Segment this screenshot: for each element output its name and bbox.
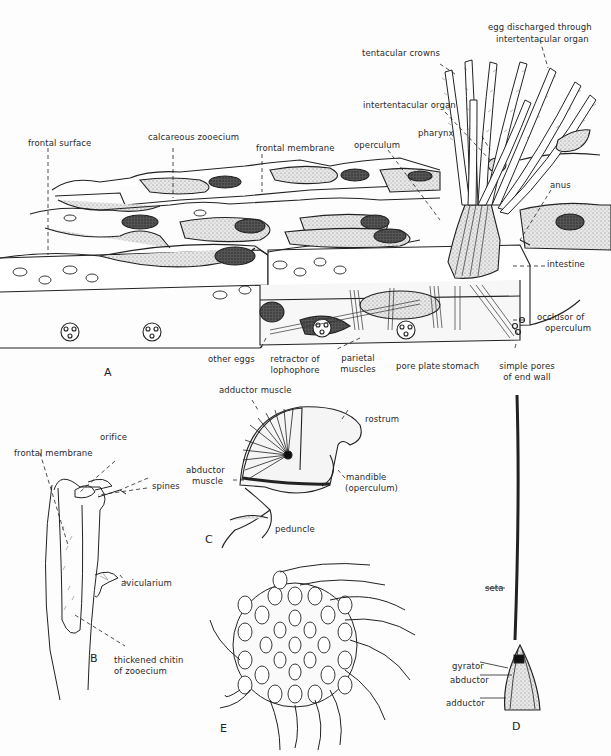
label-orifice: orifice — [100, 432, 127, 442]
label-operculum: operculum — [354, 140, 400, 150]
label-abductor-line1: abductor — [186, 465, 225, 475]
panel-letter-b: B — [90, 652, 98, 665]
panel-d-drawing — [480, 395, 540, 710]
bryozoan-anatomy-figure: frontal surface calcareous zooecium fron… — [0, 0, 611, 756]
label-anus: anus — [550, 180, 571, 190]
panel-letter-a: A — [104, 366, 112, 379]
label-calcareous-zooecium: calcareous zooecium — [148, 132, 239, 142]
label-gyrator: gyrator — [452, 661, 484, 671]
label-intertentacular-organ: intertentacular organ — [363, 100, 456, 110]
label-other-eggs: other eggs — [208, 354, 255, 364]
label-retractor-line1: retractor of — [266, 354, 324, 364]
panel-e-drawing — [210, 564, 415, 750]
label-adductor-muscle: adductor muscle — [219, 385, 292, 395]
label-pore-plate: pore plate — [396, 361, 440, 371]
label-spines: spines — [152, 481, 180, 491]
label-avicularium: avicularium — [121, 578, 172, 588]
label-parietal-line2: muscles — [336, 364, 380, 374]
label-simple-pores-line2: of end wall — [492, 372, 562, 382]
label-occlusor-line1: occlusor of — [537, 312, 584, 322]
label-rostrum: rostrum — [365, 414, 399, 424]
label-occlusor-line2: operculum — [545, 323, 591, 333]
label-peduncle: peduncle — [275, 524, 315, 534]
label-thickened-chitin-line1: thickened chitin — [114, 655, 183, 665]
label-simple-pores-line1: simple pores — [492, 361, 562, 371]
label-mandible-line2: (operculum) — [345, 483, 398, 493]
panel-letter-c: C — [205, 533, 213, 546]
label-seta: seta — [485, 583, 504, 593]
label-pharynx: pharynx — [418, 128, 454, 138]
label-frontal-membrane-a: frontal membrane — [256, 143, 335, 153]
label-parietal-line1: parietal — [336, 353, 380, 363]
label-abductor-line2: muscle — [192, 476, 223, 486]
label-mandible-line1: mandible — [346, 472, 386, 482]
panel-letter-e: E — [220, 722, 227, 735]
panel-letter-d: D — [512, 720, 520, 733]
label-stomach: stomach — [442, 361, 479, 371]
label-retractor-line2: lophophore — [266, 365, 324, 375]
label-thickened-chitin-line2: of zooecium — [114, 666, 167, 676]
label-adductor-d: adductor — [446, 698, 485, 708]
label-abductor-d: abductor — [450, 675, 489, 685]
label-egg-discharged-line2: intertentacular organ — [496, 34, 589, 44]
label-egg-discharged-line1: egg discharged through — [488, 22, 592, 32]
label-frontal-surface: frontal surface — [28, 138, 91, 148]
panel-a-drawing — [0, 40, 611, 350]
label-tentacular-crowns: tentacular crowns — [362, 48, 440, 58]
label-intestine: intestine — [547, 259, 585, 269]
label-frontal-membrane-b: frontal membrane — [14, 448, 93, 458]
